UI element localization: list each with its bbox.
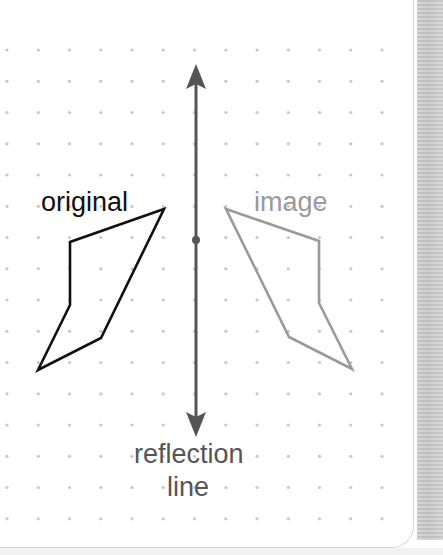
grid-dot [380,455,383,458]
grid-dot [349,330,352,333]
reflection-line-arrow [186,64,206,437]
grid-dot [37,486,40,489]
original-label: original [41,189,128,216]
grid-dot [255,517,258,520]
grid-dot [287,361,290,364]
grid-dot [37,236,40,239]
grid-dot [5,486,8,489]
grid-dot [68,111,71,114]
grid-dot [162,392,165,395]
grid-dot [349,142,352,145]
grid-dot [193,48,196,51]
grid-dot [224,142,227,145]
grid-dot [130,517,133,520]
grid-dot [287,236,290,239]
grid-dot [287,517,290,520]
grid-dot [224,236,227,239]
reflection-line-label-line2: line [167,474,209,501]
grid-dot [99,173,102,176]
grid-dot [255,361,258,364]
grid-dot [349,298,352,301]
grid-dot [224,173,227,176]
grid-dot [349,80,352,83]
grid-dot [287,423,290,426]
grid-dot [162,298,165,301]
grid-dot [130,111,133,114]
grid-dot [224,486,227,489]
grid-dot [162,486,165,489]
grid-dot [255,48,258,51]
grid-dot [37,298,40,301]
grid-dot [68,173,71,176]
grid-dot [224,48,227,51]
grid-dot [380,142,383,145]
grid-dot [380,423,383,426]
grid-dot [99,330,102,333]
grid-dot [318,173,321,176]
grid-dot [287,48,290,51]
grid-dot [287,298,290,301]
grid-dot [68,455,71,458]
grid-dot [287,392,290,395]
grid-dot [224,361,227,364]
grid-dot [130,236,133,239]
grid-dot [162,423,165,426]
grid-dot [99,423,102,426]
grid-dot [380,111,383,114]
grid-dot [255,80,258,83]
grid-dot [349,267,352,270]
grid-dot [255,111,258,114]
grid-dot [5,48,8,51]
grid-dot [130,392,133,395]
grid-dot [224,298,227,301]
grid-dot [380,392,383,395]
grid-dot [130,80,133,83]
grid-dot [255,392,258,395]
grid-dot [318,423,321,426]
grid-dot [99,486,102,489]
grid-dot [162,517,165,520]
grid-dot [287,486,290,489]
grid-dot [37,205,40,208]
grid-dot [318,111,321,114]
grid-dot [224,111,227,114]
grid-dot [130,423,133,426]
grid-dot [99,80,102,83]
reflection-diagram [0,0,443,555]
grid-dot [318,517,321,520]
grid-dot [380,330,383,333]
grid-dot [37,111,40,114]
grid-dot [68,330,71,333]
grid-dot [380,517,383,520]
grid-dot [349,205,352,208]
grid-dot [318,455,321,458]
grid-dot [37,80,40,83]
grid-dot [318,392,321,395]
grid-dot [68,361,71,364]
grid-dot [5,205,8,208]
reflection-line-label: reflection [134,441,244,468]
grid-dot [37,267,40,270]
grid-dot [162,111,165,114]
grid-dot [255,455,258,458]
grid-dot [318,142,321,145]
grid-dot [130,298,133,301]
grid-dot [224,392,227,395]
grid-dot [224,80,227,83]
grid-dot [37,392,40,395]
grid-dot [349,48,352,51]
grid-dot [318,361,321,364]
grid-dot [380,173,383,176]
grid-dot [68,80,71,83]
grid-dot [349,236,352,239]
grid-dot [99,517,102,520]
grid-dot [380,205,383,208]
grid-dot [99,48,102,51]
grid-dot [5,423,8,426]
grid-dot [255,486,258,489]
grid-dot [224,423,227,426]
grid-dot [162,142,165,145]
grid-dot [99,111,102,114]
grid-dot [162,48,165,51]
grid-dot [99,455,102,458]
